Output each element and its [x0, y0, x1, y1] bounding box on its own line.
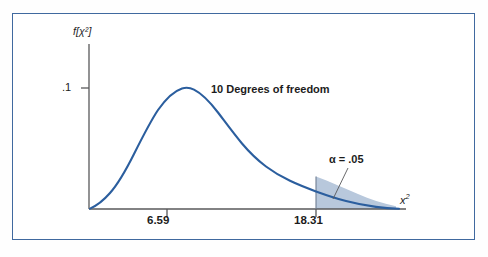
- chi-square-distribution-figure: f[χ²] .1 x2 6.59 18.31 10 Degrees of fre…: [0, 0, 488, 257]
- chi-square-density-curve: [90, 88, 399, 209]
- y-tick-label: .1: [62, 82, 71, 93]
- x-axis-label-exponent: 2: [406, 192, 410, 201]
- y-axis-label: f[χ²]: [73, 26, 91, 37]
- x-axis-label: x2: [400, 193, 410, 206]
- x-tick-label-6-59: 6.59: [147, 215, 169, 227]
- alpha-annotation: α = .05: [329, 154, 364, 165]
- y-axis-label-text: f[χ²]: [73, 25, 91, 37]
- chart-canvas: [0, 0, 488, 257]
- degrees-of-freedom-annotation: 10 Degrees of freedom: [211, 84, 330, 95]
- x-tick-label-18-31: 18.31: [294, 215, 323, 227]
